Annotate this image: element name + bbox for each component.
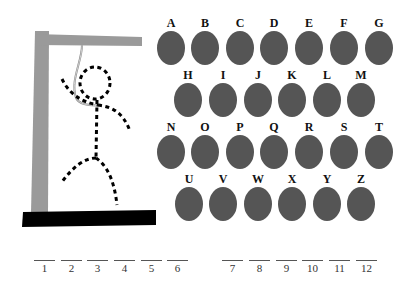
letter-button-r[interactable]: R <box>294 121 324 167</box>
letter-label: J <box>243 69 273 81</box>
letter-label: L <box>312 69 342 81</box>
blank-slot-7: 7 <box>222 260 243 274</box>
letter-circle[interactable] <box>209 187 237 221</box>
letter-label: X <box>277 173 307 185</box>
blank-slot-2: 2 <box>61 260 82 274</box>
blank-slot-1: 1 <box>34 260 55 274</box>
letter-button-k[interactable]: K <box>277 69 307 115</box>
letter-circle[interactable] <box>157 31 185 65</box>
letter-button-w[interactable]: W <box>243 173 273 219</box>
blank-index: 11 <box>334 262 345 274</box>
blank-index: 3 <box>95 262 101 274</box>
letter-button-s[interactable]: S <box>329 121 359 167</box>
blank-slot-9: 9 <box>276 260 297 274</box>
letter-label: N <box>156 121 186 133</box>
figure-head <box>80 67 110 99</box>
letter-label: I <box>208 69 238 81</box>
letter-button-j[interactable]: J <box>243 69 273 115</box>
letter-label: C <box>225 17 255 29</box>
blank-index: 4 <box>122 262 128 274</box>
figure-right-arm <box>98 105 130 131</box>
letter-circle[interactable] <box>191 135 219 169</box>
letter-button-x[interactable]: X <box>277 173 307 219</box>
letter-button-y[interactable]: Y <box>312 173 342 219</box>
letter-button-d[interactable]: D <box>259 17 289 63</box>
letter-label: E <box>294 17 324 29</box>
letter-button-l[interactable]: L <box>312 69 342 115</box>
blank-index: 7 <box>230 262 236 274</box>
letter-circle[interactable] <box>226 135 254 169</box>
letter-circle[interactable] <box>330 31 358 65</box>
letter-label: D <box>259 17 289 29</box>
letter-button-v[interactable]: V <box>208 173 238 219</box>
blank-index: 1 <box>42 262 48 274</box>
blank-index: 9 <box>284 262 290 274</box>
letter-circle[interactable] <box>260 135 288 169</box>
letter-label: A <box>156 17 186 29</box>
letter-button-e[interactable]: E <box>294 17 324 63</box>
letter-circle[interactable] <box>244 187 272 221</box>
letter-button-u[interactable]: U <box>174 173 204 219</box>
letter-button-z[interactable]: Z <box>346 173 376 219</box>
letter-button-a[interactable]: A <box>156 17 186 63</box>
letter-button-m[interactable]: M <box>346 69 376 115</box>
blank-slot-5: 5 <box>141 260 162 274</box>
letter-button-f[interactable]: F <box>329 17 359 63</box>
gallows-beam <box>35 34 142 46</box>
hangman-drawing <box>0 0 160 232</box>
letter-circle[interactable] <box>365 31 393 65</box>
letter-button-n[interactable]: N <box>156 121 186 167</box>
letter-circle[interactable] <box>174 83 202 117</box>
letter-circle[interactable] <box>278 187 306 221</box>
letter-label: Z <box>346 173 376 185</box>
letter-button-i[interactable]: I <box>208 69 238 115</box>
letter-label: B <box>190 17 220 29</box>
blank-slot-12: 12 <box>356 260 377 274</box>
letter-label: S <box>329 121 359 133</box>
letter-circle[interactable] <box>295 31 323 65</box>
letter-circle[interactable] <box>330 135 358 169</box>
letter-circle[interactable] <box>278 83 306 117</box>
letter-button-c[interactable]: C <box>225 17 255 63</box>
letter-circle[interactable] <box>244 83 272 117</box>
letter-circle[interactable] <box>347 187 375 221</box>
letter-circle[interactable] <box>191 31 219 65</box>
blank-slot-6: 6 <box>167 260 188 274</box>
letter-circle[interactable] <box>347 83 375 117</box>
blank-slot-10: 10 <box>302 260 323 274</box>
letter-label: G <box>364 17 394 29</box>
letter-button-q[interactable]: Q <box>259 121 289 167</box>
letter-circle[interactable] <box>226 31 254 65</box>
letter-label: H <box>173 69 203 81</box>
letter-button-t[interactable]: T <box>364 121 394 167</box>
letter-label: U <box>174 173 204 185</box>
letter-circle[interactable] <box>365 135 393 169</box>
letter-label: Q <box>259 121 289 133</box>
letter-circle[interactable] <box>157 135 185 169</box>
letter-label: M <box>346 69 376 81</box>
letter-circle[interactable] <box>313 187 341 221</box>
letter-circle[interactable] <box>175 187 203 221</box>
blank-index: 8 <box>257 262 263 274</box>
letter-circle[interactable] <box>295 135 323 169</box>
letter-button-b[interactable]: B <box>190 17 220 63</box>
gallows-post <box>31 31 49 213</box>
blank-index: 12 <box>361 262 372 274</box>
letter-label: O <box>190 121 220 133</box>
letter-circle[interactable] <box>209 83 237 117</box>
letter-label: F <box>329 17 359 29</box>
letter-button-h[interactable]: H <box>173 69 203 115</box>
letter-circle[interactable] <box>313 83 341 117</box>
blank-index: 10 <box>307 262 318 274</box>
blank-slot-8: 8 <box>249 260 270 274</box>
letter-button-g[interactable]: G <box>364 17 394 63</box>
blank-index: 6 <box>175 262 181 274</box>
letter-label: Y <box>312 173 342 185</box>
blank-index: 2 <box>69 262 75 274</box>
letter-button-p[interactable]: P <box>225 121 255 167</box>
letter-circle[interactable] <box>260 31 288 65</box>
letter-button-o[interactable]: O <box>190 121 220 167</box>
figure-body <box>96 100 97 158</box>
figure-right-leg <box>96 158 117 205</box>
gallows-base <box>22 210 156 227</box>
